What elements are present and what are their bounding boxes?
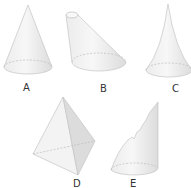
label-a: A [23,82,30,93]
shape-c-concave-cone [146,4,191,77]
shape-b-frustum [66,12,126,71]
solids-diagram: A B C D E [0,0,191,188]
label-b: B [100,83,107,94]
label-e: E [130,178,136,188]
shape-a-cone [4,5,52,74]
shape-d-tetrahedron [33,97,95,175]
shape-e-cut-cone [111,102,158,175]
label-c: C [172,83,179,94]
label-d: D [73,178,81,188]
